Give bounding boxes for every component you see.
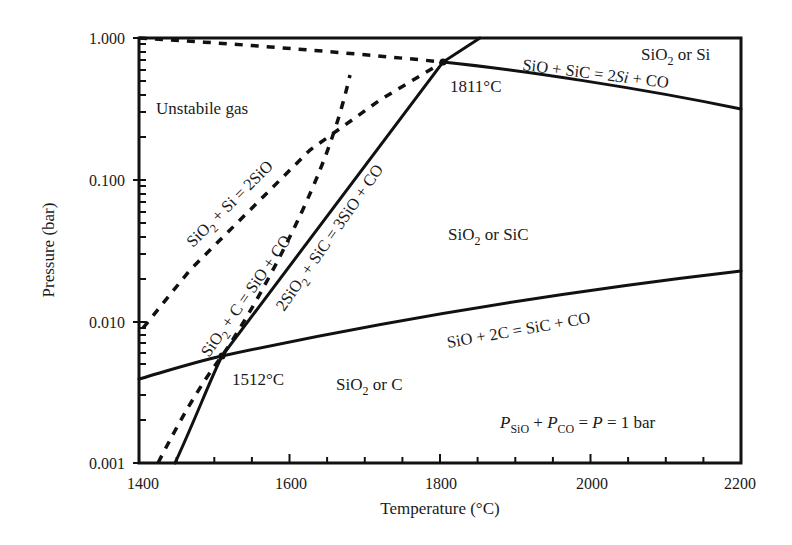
line-unstable-gas (139, 38, 443, 62)
junction-1512 (219, 353, 226, 360)
y-tick-label: 0.010 (89, 314, 125, 331)
reaction-label-sio2-si: SiO2 + Si = 2SiO (182, 156, 279, 253)
y-tick-label: 1.000 (89, 30, 125, 47)
x-tick-label: 2000 (576, 475, 608, 492)
x-axis-title: Temperature (°C) (380, 499, 499, 518)
x-tick-label: 1400 (127, 475, 159, 492)
region-sio2-or-sic: SiO2 or SiC (448, 225, 529, 248)
y-axis-title: Pressure (bar) (39, 203, 58, 298)
x-tick-label: 1600 (275, 475, 307, 492)
x-tick-labels: 1400 1600 1800 2000 2200 (127, 475, 756, 492)
annotation-1811: 1811°C (450, 77, 502, 96)
junction-1811 (440, 59, 447, 66)
region-unstable-gas: Unstabile gas (156, 99, 248, 118)
x-tick-label: 1800 (425, 475, 457, 492)
x-tick-label: 2200 (724, 475, 756, 492)
phase-diagram-chart: 1.000 0.100 0.010 0.001 1400 1600 1800 2… (0, 0, 792, 545)
annotation-1512: 1512°C (232, 370, 284, 389)
y-tick-labels: 1.000 0.100 0.010 0.001 (89, 30, 125, 472)
reaction-label-sio-2c: SiO + 2C = SiC + CO (445, 308, 591, 352)
pressure-condition-note: PSiO + PCO = P = 1 bar (499, 413, 656, 436)
region-sio2-or-si: SiO2 or Si (641, 45, 711, 68)
y-tick-label: 0.001 (89, 455, 125, 472)
y-tick-label: 0.100 (89, 172, 125, 189)
region-sio2-or-c: SiO2 or C (336, 375, 402, 398)
